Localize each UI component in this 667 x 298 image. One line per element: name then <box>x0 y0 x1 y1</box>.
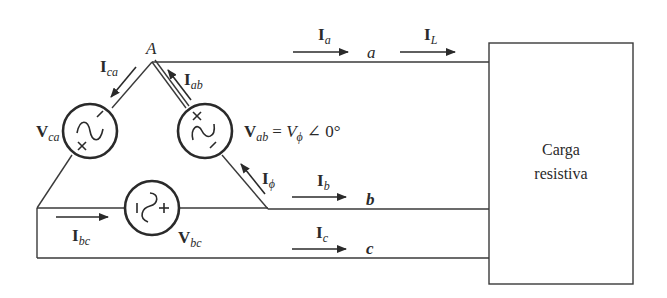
leg-ca-lower <box>37 155 72 208</box>
current-ica-label: Ica <box>100 57 118 79</box>
current-ibc-label: Ibc <box>72 226 91 248</box>
resistive-load: Carga resistiva <box>489 43 633 284</box>
line-c-label: c <box>366 239 374 258</box>
line-a-label: a <box>367 43 376 62</box>
current-ib-label: Ib <box>317 171 330 193</box>
leg-ab-upper <box>152 62 186 108</box>
voltage-vab-equation: Vab= Vϕ∠ 0° <box>244 122 341 144</box>
source-vbc-circle <box>125 181 179 235</box>
current-iphi-label: Iϕ <box>262 169 275 191</box>
source-vbc <box>125 181 179 235</box>
three-phase-delta-circuit: Carga resistiva A Ica <box>0 0 667 298</box>
voltage-vbc-label: Vbc <box>178 228 202 250</box>
current-iab-label: Iab <box>184 70 203 92</box>
load-box <box>489 43 633 284</box>
voltage-vca-label: Vca <box>36 122 60 144</box>
source-vab <box>178 104 232 158</box>
wires <box>37 60 489 258</box>
current-ic-label: Ic <box>316 223 329 245</box>
source-vab-circle <box>178 104 232 158</box>
current-arrows <box>56 52 455 249</box>
line-b-label: b <box>366 190 375 209</box>
load-label-line1: Carga <box>542 141 580 159</box>
source-vca <box>63 104 117 158</box>
current-il-label: IL <box>424 25 438 47</box>
leg-ca-upper <box>112 62 152 108</box>
node-a-label: A <box>145 39 157 58</box>
current-ia-label: Ia <box>318 25 331 47</box>
load-label-line2: resistiva <box>534 165 587 182</box>
